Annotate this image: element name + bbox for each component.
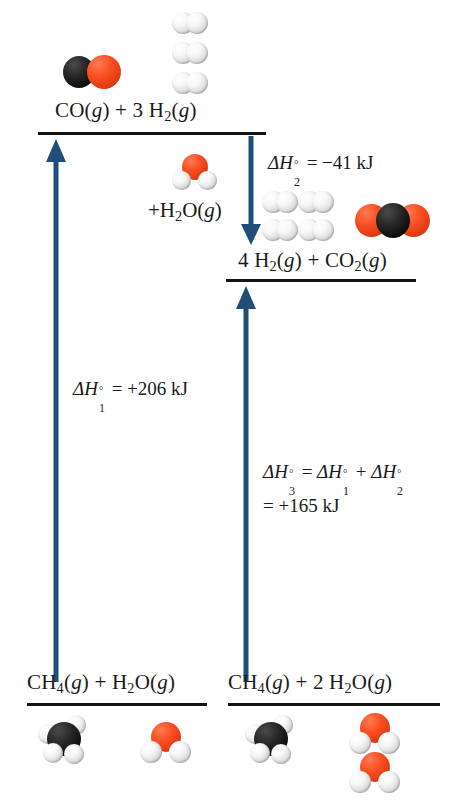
atom-hydrogen — [172, 171, 191, 190]
atom-hydrogen — [250, 743, 270, 763]
molecule-hydrogen-stack-top — [172, 12, 226, 100]
delta-h3-line2: = +165 kJ — [263, 492, 396, 520]
molecule-water-middle — [172, 154, 218, 192]
molecule-water-bottom-left — [140, 722, 192, 766]
atom-hydrogen — [378, 732, 400, 754]
molecule-water-bottom-right-1 — [349, 713, 401, 757]
atom-hydrogen — [186, 12, 208, 34]
atom-hydrogen — [312, 219, 334, 241]
atom-hydrogen — [349, 771, 371, 793]
molecule-water-bottom-right-2 — [349, 752, 401, 796]
delta-h3-line1: ΔH°3 = ΔH°1 + ΔH°2 — [263, 458, 396, 486]
atom-hydrogen — [349, 732, 371, 754]
annotation-plus-water: +H2O(g) — [148, 198, 222, 225]
arrow-delta-h2 — [238, 136, 264, 246]
molecule-methane-bottom-left — [38, 715, 96, 770]
state-label-top-text: CO( — [55, 98, 92, 122]
atom-oxygen — [87, 55, 121, 89]
atom-hydrogen — [64, 744, 84, 764]
annotation-delta-h3: ΔH°3 = ΔH°1 + ΔH°2 = +165 kJ — [263, 458, 396, 519]
level-line-bottom-right — [228, 703, 440, 706]
state-label-bottom-left: CH4(g) + H2O(g) — [27, 670, 175, 697]
atom-hydrogen — [378, 771, 400, 793]
atom-hydrogen — [276, 219, 298, 241]
atom-hydrogen — [271, 744, 291, 764]
atom-hydrogen — [186, 72, 208, 94]
annotation-delta-h2: ΔH°2 = −41 kJ — [268, 149, 373, 177]
atom-hydrogen — [43, 743, 63, 763]
atom-hydrogen — [276, 191, 298, 213]
atom-carbon — [376, 203, 410, 238]
molecule-hydrogen-cluster — [262, 191, 348, 251]
arrow-delta-h1 — [43, 138, 69, 682]
state-label-bottom-right: CH4(g) + 2 H2O(g) — [228, 670, 392, 697]
arrow-delta-h3 — [233, 285, 259, 682]
level-line-bottom-left — [27, 703, 207, 706]
atom-hydrogen — [186, 42, 208, 64]
atom-hydrogen — [169, 741, 191, 763]
molecule-carbon-monoxide — [63, 55, 125, 89]
molecule-methane-bottom-right — [245, 715, 303, 770]
energy-diagram-canvas: CO(g) + 3 H2(g) ΔH°2 = −41 kJ +H2O(g) — [0, 0, 468, 810]
level-line-top — [38, 132, 266, 135]
atom-hydrogen — [312, 191, 334, 213]
state-label-top: CO(g) + 3 H2(g) — [55, 98, 197, 125]
atom-hydrogen — [140, 741, 162, 763]
atom-hydrogen — [198, 171, 217, 190]
state-label-middle-right: 4 H2(g) + CO2(g) — [238, 248, 387, 275]
annotation-delta-h1: ΔH°1 = +206 kJ — [73, 375, 188, 403]
level-line-middle-right — [226, 279, 416, 282]
molecule-carbon-dioxide — [355, 203, 433, 239]
